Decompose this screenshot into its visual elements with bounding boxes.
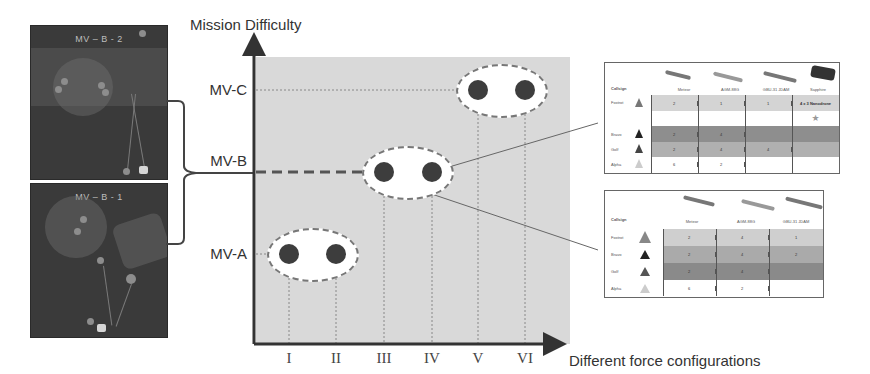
- callsign-alpha: Alpha: [611, 162, 621, 167]
- cell-foxtrot-sapphire: 4 x 3 Nanodrone: [792, 101, 839, 106]
- point-vi-mv-c[interactable]: [515, 80, 535, 100]
- x-tick-ii: II: [321, 350, 351, 367]
- callsign-bravo: Bravo: [611, 132, 621, 137]
- bravo-aircraft-icon: [640, 250, 650, 259]
- agm-missile-icon: [741, 199, 775, 211]
- cell-golf-gbu: 4: [745, 147, 792, 152]
- callsign-foxtrot: Foxtrot: [611, 235, 623, 240]
- y-tick-mv-b: MV-B: [197, 152, 247, 169]
- cell-golf-agm: 4: [698, 147, 745, 152]
- cell-alpha-agm: 2: [698, 162, 745, 167]
- cell-bravo-meteor: 2: [651, 132, 698, 137]
- y-tick-mv-c: MV-C: [197, 81, 247, 98]
- gbu-bomb-icon: [763, 71, 797, 83]
- point-i-mv-a[interactable]: [279, 244, 299, 264]
- cell-foxtrot-agm: 1: [698, 101, 745, 106]
- point-iv-mv-b[interactable]: [422, 162, 442, 182]
- weapon-header-sapphire: Sapphire: [795, 87, 841, 92]
- col-divider: [716, 229, 717, 296]
- col-divider: [663, 229, 664, 296]
- col-divider: [792, 95, 793, 173]
- point-iii-mv-b[interactable]: [374, 162, 394, 182]
- loadout-table-config-iii: Callsign Meteor AGM-88G GBU-31 JDAM Foxt…: [604, 190, 824, 298]
- meteor-missile-icon: [683, 195, 715, 207]
- cell-golf-meteor: 2: [651, 147, 698, 152]
- callsign-header: Callsign: [611, 217, 627, 222]
- point-v-mv-c[interactable]: [468, 80, 488, 100]
- cell-bravo-gbu: 2: [769, 252, 823, 257]
- y-tick-mv-a: MV-A: [197, 245, 247, 262]
- col-divider: [745, 95, 746, 173]
- callsign-foxtrot: Foxtrot: [611, 100, 623, 105]
- cell-bravo-agm: 4: [716, 252, 769, 257]
- agm-missile-icon: [713, 71, 743, 82]
- callsign-golf: Golf: [611, 269, 618, 274]
- weapon-header-gbu: GBU-31 JDAM: [753, 87, 799, 92]
- foxtrot-aircraft-icon: [635, 98, 643, 107]
- cell-alpha-meteor: 6: [663, 286, 716, 291]
- callsign-alpha: Alpha: [611, 286, 621, 291]
- alpha-aircraft-icon: [635, 159, 643, 168]
- cell-alpha-agm: 2: [716, 286, 769, 291]
- x-tick-i: I: [274, 350, 304, 367]
- cell-drone-star: ★: [792, 113, 839, 123]
- cell-bravo-meteor: 2: [663, 252, 716, 257]
- loadout-table-config-iv: Callsign Meteor AGM-88G GBU-31 JDAM Sapp…: [604, 62, 840, 174]
- x-tick-vi: VI: [510, 350, 540, 367]
- callsign-golf: Golf: [611, 147, 618, 152]
- sapphire-drone-pod-icon: [810, 65, 836, 81]
- alpha-aircraft-icon: [640, 284, 650, 293]
- cell-foxtrot-agm: 4: [716, 235, 769, 240]
- x-tick-iii: III: [369, 350, 399, 367]
- col-divider: [769, 229, 770, 296]
- cell-foxtrot-meteor: 2: [663, 235, 716, 240]
- bravo-aircraft-icon: [635, 129, 643, 138]
- weapon-header-agm: AGM-88G: [707, 87, 753, 92]
- cell-foxtrot-gbu: 1: [769, 235, 823, 240]
- callsign-bravo: Bravo: [611, 252, 621, 257]
- callsign-header: Callsign: [611, 86, 627, 91]
- weapon-header-agm: AGM-88G: [719, 219, 773, 224]
- weapon-header-meteor: Meteor: [665, 219, 719, 224]
- golf-aircraft-icon: [635, 144, 643, 153]
- meteor-missile-icon: [665, 70, 691, 80]
- cell-bravo-agm: 4: [698, 132, 745, 137]
- cell-alpha-meteor: 6: [651, 162, 698, 167]
- cell-golf-meteor: 2: [663, 269, 716, 274]
- cell-golf-agm: 4: [716, 269, 769, 274]
- gbu-bomb-icon: [785, 196, 823, 209]
- weapon-header-meteor: Meteor: [661, 87, 707, 92]
- col-divider: [651, 95, 652, 173]
- x-tick-v: V: [463, 350, 493, 367]
- point-ii-mv-a[interactable]: [326, 244, 346, 264]
- golf-aircraft-icon: [640, 267, 650, 276]
- col-divider: [698, 95, 699, 173]
- x-tick-iv: IV: [417, 350, 447, 367]
- weapon-header-gbu: GBU-31 JDAM: [769, 219, 823, 224]
- cell-foxtrot-gbu: 1: [745, 101, 792, 106]
- foxtrot-aircraft-icon: [639, 231, 651, 243]
- cell-foxtrot-meteor: 2: [651, 101, 698, 106]
